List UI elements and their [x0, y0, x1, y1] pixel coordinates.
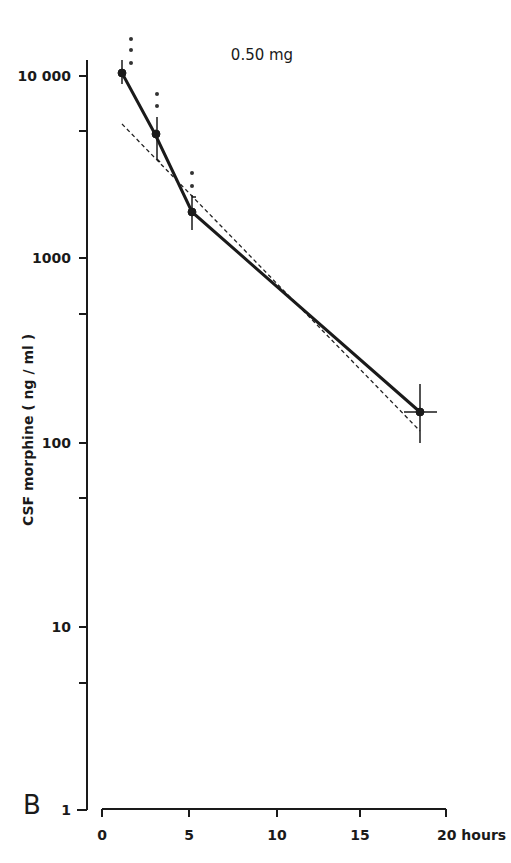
observed-series	[118, 60, 437, 443]
y-axis-label: CSF morphine ( ng / ml )	[20, 334, 36, 526]
x-tick-5: 5	[184, 827, 194, 843]
y-tick-10000: 10 000	[17, 68, 71, 84]
data-point	[152, 130, 160, 138]
panel-label: B	[23, 790, 41, 820]
x-tick-10: 10	[267, 827, 287, 843]
y-tick-1000: 1000	[32, 250, 71, 266]
x-tick-0: 0	[97, 827, 107, 843]
y-axis	[77, 60, 87, 810]
data-point	[118, 69, 126, 77]
x-axis	[102, 809, 446, 817]
chart: 10 000 1000 100 10 1 0 5 10 15 20 hours …	[0, 0, 511, 863]
regression-line	[122, 124, 420, 431]
data-point	[188, 208, 196, 216]
x-tick-20-hours: 20 hours	[437, 827, 506, 843]
x-tick-labels: 0 5 10 15 20 hours	[97, 827, 506, 843]
x-tick-15: 15	[350, 827, 369, 843]
data-point	[416, 408, 424, 416]
y-tick-10: 10	[52, 619, 72, 635]
y-tick-100: 100	[42, 435, 71, 451]
y-tick-1: 1	[61, 802, 71, 818]
chart-title: 0.50 mg	[231, 46, 293, 64]
